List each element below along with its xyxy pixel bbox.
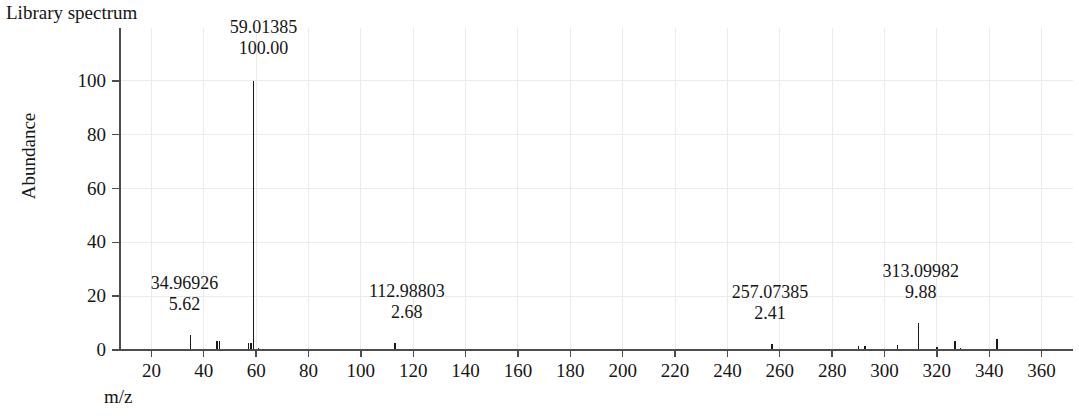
peak-mz-value: 34.96926 <box>110 273 260 294</box>
peak-abundance-value: 5.62 <box>110 294 260 315</box>
peak-annotation: 257.073852.41 <box>695 282 845 324</box>
peak-mz-value: 257.07385 <box>695 282 845 303</box>
peak-mz-value: 112.98803 <box>332 281 482 302</box>
y-tick-label: 20 <box>52 286 106 305</box>
peak-annotation: 313.099829.88 <box>846 261 996 303</box>
peak-annotation: 59.01385100.00 <box>189 17 339 59</box>
peak-annotation: 34.969265.62 <box>110 273 260 315</box>
x-tick-label: 120 <box>383 361 443 380</box>
x-tick-label: 100 <box>331 361 391 380</box>
y-tick-label: 80 <box>52 125 106 144</box>
peak-abundance-value: 100.00 <box>189 38 339 59</box>
y-tick-label: 40 <box>52 232 106 251</box>
x-tick-label: 340 <box>959 361 1019 380</box>
peak-series <box>172 81 997 350</box>
peak-abundance-value: 2.41 <box>695 303 845 324</box>
peak-abundance-value: 9.88 <box>846 282 996 303</box>
x-tick-label: 180 <box>540 361 600 380</box>
spectrum-plot-area <box>0 0 1079 416</box>
x-tick-label: 240 <box>697 361 757 380</box>
x-tick-label: 200 <box>593 361 653 380</box>
x-tick-label: 160 <box>488 361 548 380</box>
x-tick-label: 320 <box>907 361 967 380</box>
y-tick-label: 60 <box>52 179 106 198</box>
x-tick-label: 300 <box>854 361 914 380</box>
x-tick-label: 220 <box>645 361 705 380</box>
peak-annotation: 112.988032.68 <box>332 281 482 323</box>
peak-mz-value: 59.01385 <box>189 17 339 38</box>
axis-ticks <box>112 81 1042 357</box>
x-tick-label: 40 <box>174 361 234 380</box>
mass-spectrum-figure: Library spectrum Abundance m/z 020406080… <box>0 0 1079 416</box>
x-tick-label: 260 <box>750 361 810 380</box>
y-tick-label: 0 <box>52 340 106 359</box>
x-tick-label: 60 <box>226 361 286 380</box>
x-tick-label: 140 <box>436 361 496 380</box>
x-tick-label: 360 <box>1012 361 1072 380</box>
x-tick-label: 280 <box>802 361 862 380</box>
x-tick-label: 20 <box>121 361 181 380</box>
x-tick-label: 80 <box>279 361 339 380</box>
peak-mz-value: 313.09982 <box>846 261 996 282</box>
peak-abundance-value: 2.68 <box>332 302 482 323</box>
y-tick-label: 100 <box>52 71 106 90</box>
